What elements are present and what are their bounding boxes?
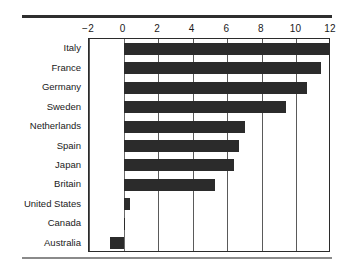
category-label: Australia xyxy=(44,237,81,248)
bar xyxy=(124,43,330,55)
x-tick-label: 4 xyxy=(189,23,195,35)
category-label: Britain xyxy=(54,178,81,189)
category-label: Spain xyxy=(57,140,81,151)
bar xyxy=(124,198,131,210)
bottom-rule xyxy=(22,257,332,259)
bar xyxy=(124,101,286,113)
x-tick-label: 12 xyxy=(324,23,336,35)
chart-figure: −2024681012 ItalyFranceGermanySwedenNeth… xyxy=(0,0,350,274)
category-label: Japan xyxy=(55,159,81,170)
bar xyxy=(110,237,124,249)
gridline--2 xyxy=(89,39,90,251)
x-tick-label: 2 xyxy=(154,23,160,35)
bar xyxy=(124,218,126,230)
bar xyxy=(124,159,235,171)
bar xyxy=(124,62,321,74)
x-tick-label: 8 xyxy=(258,23,264,35)
bar xyxy=(124,179,216,191)
y-axis-category-labels: ItalyFranceGermanySwedenNetherlandsSpain… xyxy=(0,38,85,252)
category-label: Canada xyxy=(48,217,81,228)
x-axis-tick-labels: −2024681012 xyxy=(0,23,350,37)
x-tick-label: 0 xyxy=(120,23,126,35)
category-label: United States xyxy=(24,198,81,209)
plot-area xyxy=(88,38,330,252)
category-label: Germany xyxy=(42,81,81,92)
bar xyxy=(124,140,240,152)
bar xyxy=(124,82,307,94)
top-rule xyxy=(22,15,332,18)
x-tick-label: 6 xyxy=(223,23,229,35)
category-label: France xyxy=(51,62,81,73)
x-tick-label: −2 xyxy=(82,23,94,35)
category-label: Netherlands xyxy=(30,120,81,131)
x-tick-label: 10 xyxy=(290,23,302,35)
category-label: Sweden xyxy=(47,101,81,112)
bar xyxy=(124,121,245,133)
category-label: Italy xyxy=(64,42,81,53)
